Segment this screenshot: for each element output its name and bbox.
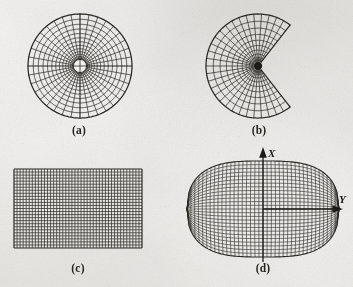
y-axis-arrowhead xyxy=(333,206,341,212)
panel-a-caption: (a) xyxy=(64,124,94,136)
x-axis-arrowhead xyxy=(260,149,266,157)
polar-full-mesh-lines xyxy=(28,14,132,118)
panel-b-center-hub xyxy=(254,62,262,70)
figure-sheet: . . . . . . . . . . (a) (b) (c) xyxy=(0,0,353,287)
panel-d-body-fitted-mesh xyxy=(178,145,353,275)
cartesian-mesh-lines xyxy=(14,169,142,248)
panel-c-cartesian-mesh xyxy=(0,150,170,265)
panel-b-polar-c-mesh xyxy=(178,0,353,135)
panel-a-polar-full-mesh xyxy=(0,0,170,135)
polar-c-mesh-lines xyxy=(206,14,290,118)
panel-b-caption: (b) xyxy=(244,124,274,136)
panel-d-caption: (d) xyxy=(248,262,278,274)
panel-c-caption: (c) xyxy=(63,262,93,274)
x-axis-label: X xyxy=(268,147,275,159)
y-axis-label: Y xyxy=(339,193,346,205)
